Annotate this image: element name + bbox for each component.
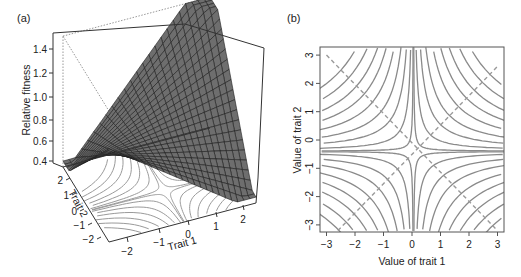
dashed-line [327,55,498,230]
contour-line [460,49,504,99]
y-tick-label: 3 [304,52,315,58]
figure: (a) (b) 0.40.60.81.01.21.4−2−1012−2−1012… [0,0,521,277]
x-tick-label: −1 [378,239,390,250]
contour-line [320,52,394,130]
y-axis-label: Value of trait 2 [291,106,303,173]
contour-line [438,174,501,233]
y-tick-label: −1 [74,220,86,231]
base-contour [104,228,141,233]
dashed-axes [327,55,498,230]
y-tick-label: −3 [304,219,315,231]
contour-line [416,50,503,148]
contour-line [323,49,367,99]
y-tick-label: 0 [304,137,315,143]
contour-line [441,48,505,120]
base-contour [84,153,123,201]
contour-line [319,52,354,89]
x-tick-label: −2 [121,246,133,257]
x-axis-label: Trait 1 [166,233,198,252]
y-tick-label: −1 [304,162,315,174]
contour-line [472,52,501,85]
x-axis-label: Value of trait 1 [379,255,446,267]
y-tick-label: 2 [57,175,63,186]
contour-line [324,50,407,144]
panel-a-surface-plot: 0.40.60.81.01.21.4−2−1012−2−1012 Relativ… [20,0,264,257]
contour-line [318,50,411,148]
base-contour [82,159,108,191]
z-tick-label: 0.8 [33,115,47,126]
contour-line [460,192,504,231]
base-contour [82,156,115,198]
x-tick-label: 2 [240,214,246,225]
x-tick-label: 3 [495,239,501,250]
contour-line [421,50,504,144]
x-tick-label: 1 [438,239,444,250]
z-axis-label: Relative fitness [20,64,32,135]
z-tick-label: 1.0 [33,92,47,103]
panel-b-contour-plot: −3−2−10123−3−2−10123 Value of trait 1 Va… [291,47,505,267]
z-tick-label: 1.4 [33,44,47,55]
y-axis-label: Trait 2 [66,187,90,219]
panel-a-label: (a) [17,12,30,24]
y-tick-label: −2 [83,234,95,245]
contour-line [323,48,387,120]
x-tick-label: −1 [153,237,165,248]
contour-line [322,48,377,111]
x-tick-label: −3 [321,239,333,250]
y-tick-label: −2 [304,190,315,202]
x-tick-label: 2 [466,239,472,250]
contour-line [320,173,389,233]
contour-line [324,159,404,229]
panel-b-label: (b) [287,12,300,24]
contour-line [449,48,504,111]
contour-line [322,152,413,231]
z-tick-label: 0.6 [33,136,47,147]
base-contour [96,218,159,226]
contour-line [423,159,504,229]
x-tick-label: −2 [349,239,361,250]
y-tick-label: 1 [304,108,315,114]
z-tick-label: 1.2 [33,68,47,79]
y-tick-label: 2 [304,80,315,86]
x-tick-label: 1 [213,221,219,232]
z-tick-label: 0.4 [33,156,47,167]
x-tick-label: 0 [409,239,415,250]
